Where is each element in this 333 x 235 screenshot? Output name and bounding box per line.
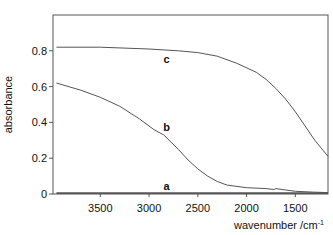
y-tick-label: 0.6 (32, 81, 47, 93)
y-tick-label: 0.2 (32, 152, 47, 164)
curve-label-c: c (164, 53, 170, 65)
x-tick-label: 1500 (283, 202, 307, 214)
curve-label-b: b (163, 121, 170, 133)
plot-frame (53, 15, 328, 194)
x-tick-label: 2000 (234, 202, 258, 214)
y-tick-label: 0 (41, 188, 47, 200)
x-tick-label: 3500 (88, 202, 112, 214)
y-tick-label: 0.4 (32, 116, 47, 128)
y-tick-label: 0.8 (32, 45, 47, 57)
x-axis-title: wavenumber /cm-1 (233, 219, 324, 231)
absorbance-chart: 00.20.40.60.835003000250020001500absorba… (0, 0, 333, 235)
x-tick-label: 2500 (186, 202, 210, 214)
y-axis-title: absorbance (2, 76, 14, 134)
curve-label-a: a (164, 180, 171, 192)
x-tick-label: 3000 (137, 202, 161, 214)
curve-b (56, 83, 328, 193)
curve-c (56, 47, 328, 156)
